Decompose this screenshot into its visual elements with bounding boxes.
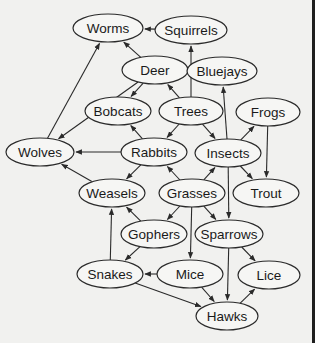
node-hawks: Hawks bbox=[196, 302, 258, 330]
edge-frogs-to-trout bbox=[266, 126, 267, 177]
edge-trees-to-insects bbox=[203, 124, 216, 138]
edge-insects-to-bluejays bbox=[223, 87, 227, 139]
edge-wolves-to-worms bbox=[48, 43, 100, 138]
edge-insects-to-sparrows bbox=[228, 167, 229, 218]
edge-grasses-to-rabbits bbox=[167, 167, 180, 181]
node-lice: Lice bbox=[238, 261, 300, 289]
node-label: Mice bbox=[176, 267, 205, 282]
node-layer: WormsSquirrelsDeerBluejaysBobcatsTreesFr… bbox=[6, 14, 300, 330]
edge-trees-to-deer bbox=[168, 85, 180, 98]
node-label: Worms bbox=[87, 21, 130, 36]
node-insects: Insects bbox=[195, 139, 261, 167]
edge-hawks-to-lice bbox=[240, 289, 255, 303]
node-label: Bobcats bbox=[94, 104, 143, 119]
food-web-diagram: WormsSquirrelsDeerBluejaysBobcatsTreesFr… bbox=[0, 0, 315, 343]
node-grasses: Grasses bbox=[159, 179, 225, 207]
node-sparrows: Sparrows bbox=[195, 220, 263, 248]
node-trout: Trout bbox=[233, 179, 299, 207]
edge-sparrows-to-lice bbox=[242, 247, 255, 261]
node-squirrels: Squirrels bbox=[155, 16, 227, 44]
edge-gophers-to-weasels bbox=[127, 207, 141, 221]
node-label: Trees bbox=[174, 104, 208, 119]
node-frogs: Frogs bbox=[236, 98, 300, 126]
edge-grasses-to-gophers bbox=[167, 206, 180, 220]
node-label: Lice bbox=[257, 268, 282, 283]
node-label: Squirrels bbox=[164, 23, 218, 38]
node-weasels: Weasels bbox=[79, 179, 145, 207]
node-bobcats: Bobcats bbox=[85, 97, 151, 125]
node-label: Insects bbox=[207, 146, 250, 161]
edge-insects-to-trout bbox=[240, 166, 252, 179]
edge-rabbits-to-weasels bbox=[127, 165, 141, 179]
node-label: Grasses bbox=[167, 186, 218, 201]
node-label: Bluejays bbox=[196, 64, 247, 79]
node-wolves: Wolves bbox=[6, 138, 74, 166]
edge-grasses-to-mice bbox=[190, 207, 191, 258]
node-gophers: Gophers bbox=[121, 220, 187, 248]
node-label: Trout bbox=[250, 186, 281, 201]
node-label: Gophers bbox=[128, 227, 180, 242]
node-label: Weasels bbox=[86, 186, 138, 201]
node-label: Frogs bbox=[251, 105, 286, 120]
node-label: Rabbits bbox=[131, 145, 177, 160]
node-label: Deer bbox=[140, 63, 170, 78]
edge-gophers-to-snakes bbox=[125, 247, 140, 260]
edge-grasses-to-sparrows bbox=[204, 206, 216, 219]
node-label: Snakes bbox=[87, 267, 132, 282]
node-bluejays: Bluejays bbox=[187, 57, 257, 85]
node-worms: Worms bbox=[73, 14, 143, 42]
edge-snakes-to-weasels bbox=[110, 209, 111, 260]
node-label: Sparrows bbox=[200, 227, 257, 242]
edge-grasses-to-insects bbox=[204, 168, 215, 180]
node-mice: Mice bbox=[157, 260, 223, 288]
node-label: Wolves bbox=[18, 145, 62, 160]
right-edge-bar bbox=[312, 0, 315, 343]
edge-weasels-to-wolves bbox=[62, 164, 93, 182]
edge-rabbits-to-bobcats bbox=[131, 126, 143, 139]
edge-mice-to-hawks bbox=[202, 287, 215, 301]
node-snakes: Snakes bbox=[77, 260, 143, 288]
edge-sparrows-to-hawks bbox=[227, 248, 228, 300]
edge-deer-to-worms bbox=[124, 42, 141, 57]
edge-trees-to-rabbits bbox=[167, 124, 179, 137]
node-label: Hawks bbox=[207, 309, 248, 324]
node-trees: Trees bbox=[159, 97, 223, 125]
edge-insects-to-frogs bbox=[241, 126, 254, 140]
node-deer: Deer bbox=[122, 56, 188, 84]
node-rabbits: Rabbits bbox=[121, 138, 187, 166]
